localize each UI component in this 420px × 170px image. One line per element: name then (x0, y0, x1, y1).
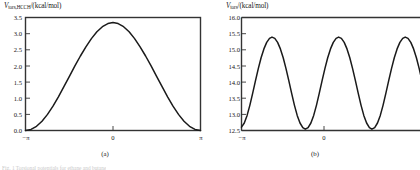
y-tick-label-a-6: 3.0 (0, 30, 22, 37)
figure-panel-a: Vtors,HCCH/(kcal/mol) 0.0 0.5 1.0 1.5 2.… (0, 0, 210, 170)
y-tick-label-a-3: 1.5 (0, 79, 22, 86)
y-tick-label-a-2: 1.0 (0, 95, 22, 102)
x-tick-label-b-1: 0 (312, 134, 336, 141)
y-tick-label-b-2: 13.5 (218, 95, 240, 102)
y-tick-label-a-0: 0.0 (0, 127, 22, 134)
panel-caption-a: (a) (0, 150, 210, 157)
y-tick-label-b-1: 13.0 (218, 111, 240, 118)
x-tick-label-b-0: −π (230, 134, 254, 141)
y-tick-label-a-1: 0.5 (0, 111, 22, 118)
y-tick-label-b-5: 15.0 (218, 46, 240, 53)
y-tick-label-b-4: 14.5 (218, 63, 240, 70)
figure-panel-b: Vtors/(kcal/mol) 12.5 13.0 13.5 (210, 0, 420, 170)
plot-area-a (0, 0, 210, 170)
figure-footer-text: Fig. 1 Torsional potentials for ethane a… (2, 165, 106, 170)
y-tick-label-a-4: 2.0 (0, 63, 22, 70)
plot-frame-a (26, 18, 201, 131)
plot-area-b (210, 0, 420, 170)
y-tick-label-b-7: 16.0 (218, 14, 240, 21)
curve-a (26, 23, 201, 131)
y-tick-label-a-5: 2.5 (0, 46, 22, 53)
panel-caption-b: (b) (210, 150, 420, 157)
y-tick-label-b-3: 14.0 (218, 79, 240, 86)
plot-frame-b (242, 18, 420, 131)
curve-b (242, 37, 420, 129)
y-tick-label-b-6: 15.5 (218, 30, 240, 37)
y-tick-label-b-0: 12.5 (218, 127, 240, 134)
x-tick-label-a-1: 0 (101, 134, 125, 141)
x-tick-label-a-0: −π (14, 134, 38, 141)
y-tick-label-a-7: 3.5 (0, 14, 22, 21)
